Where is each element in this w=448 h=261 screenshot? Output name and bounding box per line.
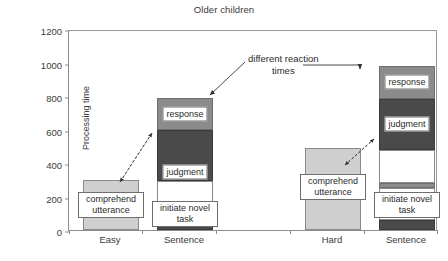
- y-ticklabel-400: 400: [46, 160, 69, 171]
- bar-hard-label-line2: utterance: [304, 187, 362, 198]
- bar-sentence-hard-label-initiate-line2: task: [378, 205, 436, 216]
- annotation-line-2: times: [248, 65, 319, 77]
- bar-sentence-easy-label-judgment: judgment: [162, 165, 207, 180]
- bar-hard[interactable]: comprehend utterance: [305, 148, 361, 230]
- bar-sentence-easy-label-initiate: initiate novel task: [152, 201, 218, 227]
- x-tickmark-1: [142, 230, 143, 234]
- chart-container: Older children Processing time 0 200 400…: [0, 0, 448, 261]
- bar-sentence-hard-label-response: response: [384, 75, 429, 90]
- bar-sentence-hard-label-initiate-line1: initiate novel: [378, 194, 436, 205]
- bar-hard-label-line1: comprehend: [304, 176, 362, 187]
- bar-hard-label-comprehend: comprehend utterance: [300, 174, 366, 200]
- y-ticklabel-0: 0: [57, 227, 69, 238]
- bar-sentence-hard-segment-gap: [379, 150, 435, 184]
- y-axis-label: Processing time: [81, 58, 91, 178]
- bar-sentence-easy-label-response: response: [162, 107, 207, 122]
- bar-easy-label-line1: comprehend: [82, 194, 140, 205]
- bar-sentence-hard-segment-divider: [379, 183, 435, 188]
- bar-sentence-easy-label-initiate-line1: initiate novel: [156, 203, 214, 214]
- x-tickmark-left-edge: [69, 230, 70, 234]
- bar-easy-label-line2: utterance: [82, 205, 140, 216]
- y-ticklabel-1000: 1000: [41, 59, 69, 70]
- annotation-line-1: different reaction: [248, 53, 319, 65]
- x-axis-label-easy: Easy: [99, 234, 120, 245]
- y-ticklabel-600: 600: [46, 126, 69, 137]
- y-ticklabel-800: 800: [46, 93, 69, 104]
- chart-title: Older children: [0, 4, 448, 15]
- bar-sentence-hard-label-initiate: initiate novel task: [374, 192, 440, 218]
- x-axis-label-sentence-2: Sentence: [386, 234, 426, 245]
- bar-sentence-hard-segment-base: [379, 220, 435, 230]
- y-ticklabel-1200: 1200: [41, 26, 69, 37]
- bar-sentence-hard-label-judgment: judgment: [384, 117, 429, 132]
- x-tickmark-3: [290, 230, 291, 234]
- annotation-different-reaction-times: different reaction times: [248, 53, 319, 76]
- x-axis-label-sentence-1: Sentence: [164, 234, 204, 245]
- x-tickmark-4: [364, 230, 365, 234]
- bar-sentence-hard[interactable]: initiate novel task judgment response: [379, 66, 435, 230]
- x-tickmark-2: [216, 230, 217, 234]
- bar-easy[interactable]: comprehend utterance: [83, 180, 139, 230]
- bar-sentence-easy-label-initiate-line2: task: [156, 214, 214, 225]
- x-tickmark-right-edge: [437, 230, 438, 234]
- bar-sentence-easy[interactable]: initiate novel task judgment response: [157, 98, 213, 230]
- y-ticklabel-200: 200: [46, 193, 69, 204]
- x-axis-label-hard: Hard: [322, 234, 343, 245]
- bar-easy-label-comprehend: comprehend utterance: [78, 192, 144, 218]
